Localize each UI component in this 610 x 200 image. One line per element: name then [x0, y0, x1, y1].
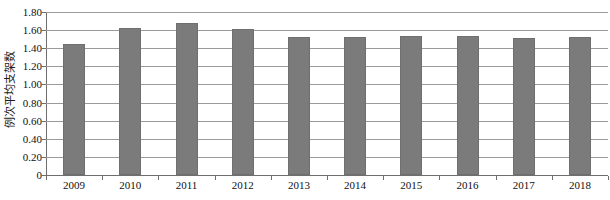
x-tick-label: 2012 — [232, 179, 254, 191]
x-tick-label: 2014 — [344, 179, 366, 191]
y-tick-mark — [41, 48, 46, 49]
gridline — [46, 12, 608, 13]
y-tick-label: 1.40 — [23, 42, 42, 54]
bar-chart: 例次平均支架数 00.200.400.600.801.001.201.401.6… — [0, 0, 610, 200]
x-tick-mark — [215, 176, 216, 180]
y-tick-label: 0.20 — [23, 151, 42, 163]
bar[interactable] — [288, 37, 310, 175]
bar[interactable] — [513, 38, 535, 175]
bar[interactable] — [569, 37, 591, 175]
x-tick-mark — [46, 176, 47, 180]
y-tick-label: 1.00 — [23, 78, 42, 90]
plot-area — [46, 12, 608, 175]
bar[interactable] — [119, 28, 141, 175]
x-tick-mark — [383, 176, 384, 180]
x-tick-label: 2011 — [176, 179, 198, 191]
bar[interactable] — [400, 36, 422, 175]
y-tick-mark — [41, 84, 46, 85]
x-tick-mark — [496, 176, 497, 180]
y-tick-label: 0.60 — [23, 115, 42, 127]
x-axis-tick-labels: 2009201020112012201320142015201620172018 — [46, 179, 608, 197]
y-tick-mark — [41, 66, 46, 67]
x-tick-label: 2013 — [288, 179, 310, 191]
y-tick-label: 1.60 — [23, 24, 42, 36]
y-tick-mark — [41, 157, 46, 158]
x-tick-mark — [158, 176, 159, 180]
bar[interactable] — [176, 23, 198, 175]
y-tick-mark — [41, 103, 46, 104]
x-tick-mark — [608, 176, 609, 180]
y-tick-label: 1.20 — [23, 60, 42, 72]
x-tick-label: 2009 — [63, 179, 85, 191]
x-tick-label: 2015 — [400, 179, 422, 191]
y-tick-label: 1.80 — [23, 6, 42, 18]
x-tick-label: 2018 — [569, 179, 591, 191]
x-tick-mark — [327, 176, 328, 180]
x-tick-label: 2017 — [513, 179, 535, 191]
bar[interactable] — [344, 37, 366, 175]
y-tick-mark — [41, 121, 46, 122]
y-axis-tick-labels: 00.200.400.600.801.001.201.401.601.80 — [14, 0, 44, 180]
y-tick-label: 0.40 — [23, 133, 42, 145]
x-tick-label: 2016 — [457, 179, 479, 191]
y-tick-mark — [41, 12, 46, 13]
bar[interactable] — [232, 29, 254, 175]
bar[interactable] — [63, 44, 85, 175]
y-tick-mark — [41, 139, 46, 140]
x-tick-mark — [102, 176, 103, 180]
y-tick-label: 0.80 — [23, 97, 42, 109]
x-tick-mark — [552, 176, 553, 180]
x-tick-mark — [271, 176, 272, 180]
x-tick-label: 2010 — [119, 179, 141, 191]
y-tick-mark — [41, 30, 46, 31]
bar[interactable] — [457, 36, 479, 175]
x-tick-mark — [439, 176, 440, 180]
